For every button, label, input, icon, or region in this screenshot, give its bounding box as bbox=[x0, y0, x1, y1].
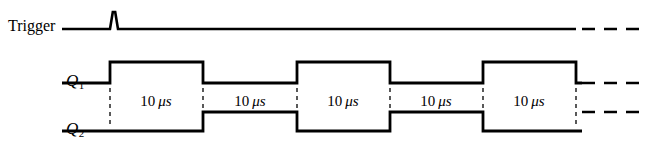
trigger-label: Trigger bbox=[8, 18, 55, 34]
interval-value: 10 bbox=[513, 93, 528, 109]
q2-label-subscript: 2 bbox=[78, 127, 84, 139]
q2-waveform bbox=[62, 112, 640, 131]
trigger-signal-line bbox=[62, 12, 576, 29]
interval-duration-label: 10μs bbox=[234, 94, 265, 109]
q1-signal-line bbox=[62, 62, 582, 83]
q1-label-text: Q bbox=[66, 71, 78, 90]
q2-label: Q2 bbox=[66, 120, 84, 139]
q2-label-text: Q bbox=[66, 119, 78, 138]
interval-unit: μs bbox=[342, 93, 358, 109]
trigger-label-text: Trigger bbox=[8, 17, 55, 34]
interval-duration-label: 10μs bbox=[140, 94, 171, 109]
q1-label-subscript: 1 bbox=[78, 79, 84, 91]
q1-label: Q1 bbox=[66, 72, 84, 91]
waveform-canvas bbox=[0, 0, 647, 166]
interval-duration-label: 10μs bbox=[327, 94, 358, 109]
interval-value: 10 bbox=[234, 93, 249, 109]
interval-unit: μs bbox=[528, 93, 544, 109]
interval-unit: μs bbox=[249, 93, 265, 109]
interval-duration-label: 10μs bbox=[420, 94, 451, 109]
interval-value: 10 bbox=[327, 93, 342, 109]
timing-diagram-figure: Trigger Q1 Q2 10μs10μs10μs10μs10μs bbox=[0, 0, 647, 166]
q1-waveform bbox=[62, 62, 640, 83]
trigger-waveform bbox=[62, 12, 640, 29]
interval-value: 10 bbox=[140, 93, 155, 109]
interval-value: 10 bbox=[420, 93, 435, 109]
interval-unit: μs bbox=[435, 93, 451, 109]
q2-signal-line bbox=[62, 112, 582, 131]
interval-unit: μs bbox=[155, 93, 171, 109]
interval-duration-label: 10μs bbox=[513, 94, 544, 109]
